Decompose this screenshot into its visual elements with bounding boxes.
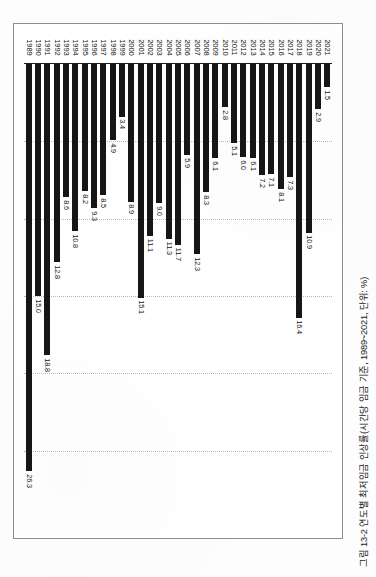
category-label-1998: 1998 xyxy=(109,34,117,61)
figure-page: 그림 13-2 연도별 최저임금 인상률(시간당 임금 기준, 1989~202… xyxy=(0,0,376,577)
chart-bar-row: 4.9 xyxy=(110,64,116,528)
chart-bar-row: 1.5 xyxy=(324,64,330,528)
chart-bar-value-label: 6.1 xyxy=(212,161,219,171)
chart-bar-row: 6.1 xyxy=(250,64,256,528)
chart-bar-value-label: 12.8 xyxy=(53,265,60,279)
category-label-2011: 2011 xyxy=(230,34,238,61)
chart-bar xyxy=(147,64,153,236)
category-label-2014: 2014 xyxy=(258,34,266,61)
chart-bar-row: 8.2 xyxy=(82,64,88,528)
chart-bar-value-label: 8.1 xyxy=(277,192,284,202)
chart-bar-value-label: 6.0 xyxy=(240,160,247,170)
chart-bar-row: 2.9 xyxy=(315,64,321,528)
chart-bar-value-label: 7.2 xyxy=(258,178,265,188)
chart-bar-row: 11.7 xyxy=(175,64,181,528)
category-label-1991: 1991 xyxy=(43,34,51,61)
category-label-1995: 1995 xyxy=(81,34,89,61)
chart-bar-value-label: 10.8 xyxy=(72,234,79,248)
category-label-2021: 2021 xyxy=(323,34,331,61)
chart-bar xyxy=(110,64,116,140)
chart-bar-row: 8.1 xyxy=(278,64,284,528)
category-label-2005: 2005 xyxy=(174,34,182,61)
chart-bar-row: 8.9 xyxy=(128,64,134,528)
category-label-1999: 1999 xyxy=(118,34,126,61)
chart-bar xyxy=(156,64,162,203)
chart-bar-value-label: 8.5 xyxy=(100,198,107,208)
chart-bar-value-label: 2.9 xyxy=(314,112,321,122)
chart-bar xyxy=(287,64,293,177)
chart-bar-row: 5.1 xyxy=(231,64,237,528)
chart-bar xyxy=(250,64,256,158)
chart-bar xyxy=(203,64,209,192)
category-label-1992: 1992 xyxy=(53,34,61,61)
chart-bar-value-label: 11.3 xyxy=(165,242,172,255)
chart-bar-row: 7.3 xyxy=(287,64,293,528)
chart-bar-value-label: 11.7 xyxy=(174,248,181,261)
category-label-2013: 2013 xyxy=(249,34,257,61)
bars-region: 26.315.018.812.88.610.88.29.38.54.93.48.… xyxy=(24,64,332,528)
category-label-2020: 2020 xyxy=(314,34,322,61)
figure-caption: 그림 13-2 연도별 최저임금 인상률(시간당 임금 기준, 1989~202… xyxy=(356,97,370,567)
category-label-2015: 2015 xyxy=(267,34,275,61)
chart-bar xyxy=(63,64,69,197)
chart-bar-value-label: 8.6 xyxy=(62,200,69,210)
chart-bar-value-label: 3.4 xyxy=(118,120,125,130)
chart-bar-value-label: 15.1 xyxy=(137,301,144,315)
chart-bar xyxy=(138,64,144,298)
category-axis: 1989199019911992199319941995199619971998… xyxy=(24,34,332,64)
category-label-2017: 2017 xyxy=(286,34,294,61)
chart-bar xyxy=(35,64,41,296)
chart-bar xyxy=(72,64,78,231)
chart-bar xyxy=(100,64,106,195)
category-label-1993: 1993 xyxy=(62,34,70,61)
chart-bar xyxy=(194,64,200,254)
chart-bar-value-label: 18.8 xyxy=(44,358,51,372)
category-label-1994: 1994 xyxy=(71,34,79,61)
chart-bar-row: 7.2 xyxy=(259,64,265,528)
chart-bar-value-label: 15.0 xyxy=(34,299,41,313)
chart-bar-row: 10.8 xyxy=(72,64,78,528)
chart-bar-row: 8.5 xyxy=(100,64,106,528)
chart-bar xyxy=(82,64,88,191)
category-label-2012: 2012 xyxy=(239,34,247,61)
chart-bar xyxy=(268,64,274,174)
chart-bar xyxy=(324,64,330,87)
chart-bar-value-label: 12.3 xyxy=(193,257,200,271)
chart-bar xyxy=(54,64,60,262)
chart-bar xyxy=(91,64,97,208)
category-label-1989: 1989 xyxy=(25,34,33,61)
category-label-2006: 2006 xyxy=(183,34,191,61)
chart-bar-value-label: 5.1 xyxy=(230,146,237,156)
category-label-2007: 2007 xyxy=(193,34,201,61)
chart-bar-row: 9.3 xyxy=(91,64,97,528)
chart-frame: 26.315.018.812.88.610.88.29.38.54.93.48.… xyxy=(13,23,343,539)
chart-bar-row: 2.8 xyxy=(222,64,228,528)
category-axis-line xyxy=(24,63,332,64)
chart-bar xyxy=(231,64,237,143)
chart-bar xyxy=(119,64,125,117)
chart-bar xyxy=(166,64,172,239)
chart-bar-row: 15.1 xyxy=(138,64,144,528)
chart-bar xyxy=(26,64,32,471)
chart-bar-row: 3.4 xyxy=(119,64,125,528)
chart-bar xyxy=(296,64,302,318)
chart-bar xyxy=(44,64,50,355)
category-label-2018: 2018 xyxy=(295,34,303,61)
chart-bar-value-label: 4.9 xyxy=(109,143,116,153)
chart-bar-row: 12.3 xyxy=(194,64,200,528)
chart-bar-row: 7.1 xyxy=(268,64,274,528)
chart-plot-area: 26.315.018.812.88.610.88.29.38.54.93.48.… xyxy=(24,34,332,528)
category-label-2010: 2010 xyxy=(221,34,229,61)
chart-bar-value-label: 11.1 xyxy=(146,239,153,252)
chart-bar xyxy=(128,64,134,202)
chart-bar-row: 16.4 xyxy=(296,64,302,528)
category-label-2002: 2002 xyxy=(146,34,154,61)
chart-bar-value-label: 16.4 xyxy=(296,321,303,335)
chart-bar-row: 8.6 xyxy=(63,64,69,528)
chart-bar-value-label: 9.0 xyxy=(156,206,163,216)
rotated-figure-stage: 그림 13-2 연도별 최저임금 인상률(시간당 임금 기준, 1989~202… xyxy=(0,0,376,577)
category-label-1997: 1997 xyxy=(99,34,107,61)
chart-bar-value-label: 7.1 xyxy=(268,177,275,187)
category-label-1996: 1996 xyxy=(90,34,98,61)
chart-bar-value-label: 8.3 xyxy=(202,195,209,205)
